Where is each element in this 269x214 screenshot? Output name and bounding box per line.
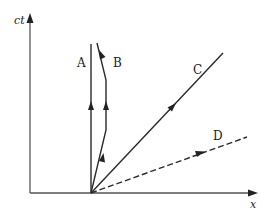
worldline-c-label: C bbox=[193, 63, 202, 77]
worldline-a-label: A bbox=[76, 56, 86, 70]
x-axis-label: x bbox=[250, 198, 257, 211]
worldline-d-arrow-icon bbox=[195, 151, 205, 157]
worldline-a: A bbox=[76, 44, 94, 193]
x-axis: x bbox=[30, 190, 258, 212]
ct-axis-label: ct bbox=[14, 14, 25, 27]
worldline-d: D bbox=[91, 129, 247, 193]
x-axis-arrow-icon bbox=[248, 190, 258, 197]
worldline-a-arrow-icon bbox=[88, 101, 94, 110]
ct-axis-arrow-icon bbox=[27, 13, 34, 23]
worldline-b-arrow-icon bbox=[103, 101, 109, 110]
worldline-b-label: B bbox=[113, 56, 122, 70]
spacetime-diagram: ct x A B C D bbox=[0, 0, 269, 214]
worldline-b-arrow-icon bbox=[99, 50, 106, 60]
worldline-b: B bbox=[91, 43, 122, 193]
worldline-c: C bbox=[91, 53, 223, 193]
worldline-d-label: D bbox=[213, 129, 223, 143]
ct-axis: ct bbox=[14, 13, 34, 193]
